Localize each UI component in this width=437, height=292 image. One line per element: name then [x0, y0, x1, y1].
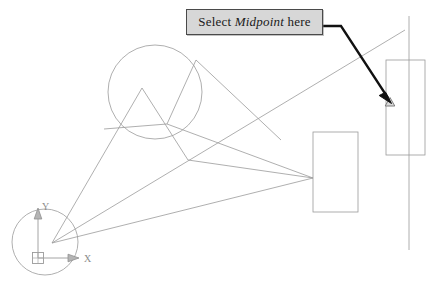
- edge-left-to-node: [104, 124, 167, 129]
- callout-text: Select Midpoint here: [198, 14, 310, 30]
- edge-circle-top-to-node: [167, 60, 196, 124]
- leader-arrow: [323, 26, 392, 104]
- middle-rectangle: [313, 132, 358, 212]
- edge-circle-top-to-rect: [196, 60, 281, 140]
- ucs-y-label: Y: [42, 201, 49, 212]
- callout-prefix: Select: [198, 14, 234, 29]
- ucs-x-arrowhead: [68, 254, 79, 262]
- cad-drawing: Y X: [0, 0, 437, 292]
- callout-box[interactable]: Select Midpoint here: [186, 9, 323, 35]
- ucs-x-label: X: [84, 253, 92, 264]
- leader-arrow-line: [323, 26, 388, 98]
- edge-lower-left-to-rect: [52, 178, 313, 243]
- long-diagonal: [52, 30, 405, 243]
- ucs-icon: Y X: [33, 201, 93, 264]
- drawing-canvas: Y X Select Midpoint here: [0, 0, 437, 292]
- edge-apex-to-lower-left: [52, 88, 142, 243]
- edge-upper-to-rect: [167, 124, 313, 178]
- lower-left-circle: [12, 209, 78, 275]
- wireframe-geometry: [12, 16, 425, 275]
- right-rectangle: [386, 60, 425, 155]
- callout-emphasis: Midpoint: [235, 14, 284, 29]
- callout-suffix: here: [284, 14, 311, 29]
- edge-node-to-rect: [188, 160, 313, 178]
